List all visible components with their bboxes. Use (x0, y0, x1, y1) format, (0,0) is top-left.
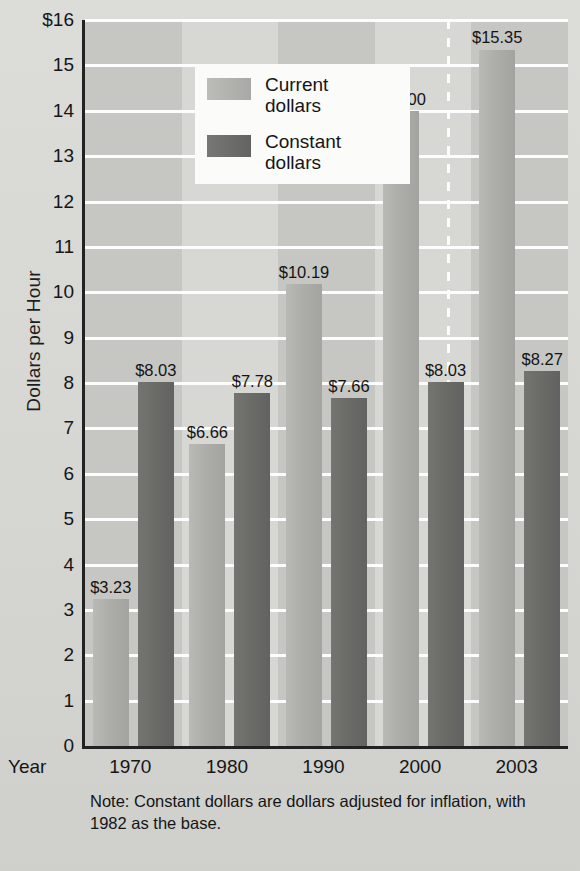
legend-label-constant-line1: Constant (265, 131, 341, 152)
plot-area: $3.23$8.03$6.66$7.78$10.19$7.66$14.00$8.… (82, 20, 568, 749)
bar (383, 111, 419, 746)
bar (93, 599, 129, 746)
gridline (85, 19, 568, 22)
x-tick-label: 2000 (399, 756, 441, 778)
legend-item-current-dollars: Current dollars (207, 74, 398, 117)
bar-value-label: $6.66 (175, 423, 239, 442)
x-tick-label: 1970 (109, 756, 151, 778)
bar-value-label: $10.19 (272, 263, 336, 282)
y-tick-label: 4 (63, 554, 74, 576)
bar (331, 398, 367, 746)
bar (428, 382, 464, 746)
y-tick-label: 7 (63, 417, 74, 439)
bar-value-label: $15.35 (465, 28, 529, 47)
legend-swatch-constant-icon (207, 135, 251, 157)
y-tick-label: 2 (63, 644, 74, 666)
chart-note: Note: Constant dollars are dollars adjus… (90, 790, 550, 835)
bar-value-label: $8.27 (510, 350, 574, 369)
bar-value-label: $7.66 (317, 377, 381, 396)
y-tick-label: 11 (54, 236, 74, 258)
legend-label-constant: Constant dollars (265, 131, 341, 174)
bar-value-label: $7.78 (220, 372, 284, 391)
y-tick-label: 10 (53, 281, 74, 303)
y-tick-label: $16 (42, 9, 74, 31)
x-tick-label: 2003 (496, 756, 538, 778)
legend-label-constant-line2: dollars (265, 152, 321, 173)
x-tick-label: 1990 (302, 756, 344, 778)
legend-label-current-line1: Current (265, 74, 328, 95)
y-tick-label: 12 (53, 191, 74, 213)
y-tick-label: 8 (63, 372, 74, 394)
x-axis-title: Year (8, 756, 46, 778)
legend: Current dollars Constant dollars (195, 64, 410, 184)
y-tick-label: 9 (63, 327, 74, 349)
x-tick-label: 1980 (206, 756, 248, 778)
bar (524, 371, 560, 746)
y-tick-label: 14 (53, 100, 74, 122)
y-tick-label: 6 (63, 463, 74, 485)
bar (234, 393, 270, 746)
y-tick-label: 5 (63, 508, 74, 530)
chart-figure: Dollars per Hour 0123456789101112131415$… (0, 0, 580, 871)
y-axis-tick-labels: 0123456789101112131415$16 (0, 0, 82, 766)
legend-item-constant-dollars: Constant dollars (207, 131, 398, 174)
y-tick-label: 13 (53, 145, 74, 167)
y-tick-label: 15 (53, 54, 74, 76)
bar (479, 50, 515, 747)
y-tick-label: 0 (63, 735, 74, 757)
legend-swatch-current-icon (207, 78, 251, 100)
bar (286, 284, 322, 746)
bar-value-label: $8.03 (124, 361, 188, 380)
bar-value-label: $8.03 (414, 361, 478, 380)
bar (189, 444, 225, 746)
legend-label-current-line2: dollars (265, 95, 321, 116)
bar (138, 382, 174, 746)
y-tick-label: 3 (63, 599, 74, 621)
chart-note-line1: Note: Constant dollars are dollars adjus… (90, 792, 492, 810)
legend-label-current: Current dollars (265, 74, 328, 117)
bar-value-label: $3.23 (79, 578, 143, 597)
y-tick-label: 1 (63, 690, 74, 712)
